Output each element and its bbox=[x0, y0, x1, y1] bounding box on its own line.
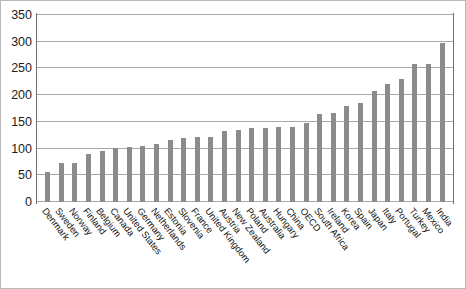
bar-new-zealand[interactable] bbox=[236, 130, 241, 202]
bar-slot bbox=[109, 15, 123, 202]
bar-slot bbox=[340, 15, 354, 202]
x-axis-labels-group: DenmarkSwedenNorwayFinlandBelgiumCanadaU… bbox=[37, 204, 453, 284]
bar-united-kingdom[interactable] bbox=[208, 137, 213, 202]
bar-slot bbox=[394, 15, 408, 202]
bar-oecd[interactable] bbox=[304, 123, 309, 202]
bar-slovenia[interactable] bbox=[181, 138, 186, 202]
x-label-slot: OECD bbox=[299, 204, 313, 284]
y-tick-label-50: 50 bbox=[18, 169, 32, 182]
x-label-slot: Austria bbox=[218, 204, 232, 284]
bar-slot bbox=[245, 15, 259, 202]
bars-group bbox=[37, 15, 453, 202]
bar-slot bbox=[299, 15, 313, 202]
y-tick-label-0: 0 bbox=[25, 196, 32, 209]
bar-slot bbox=[95, 15, 109, 202]
bar-australia[interactable] bbox=[263, 128, 268, 202]
x-label-slot: Korea bbox=[340, 204, 354, 284]
x-label-slot: Italy bbox=[381, 204, 395, 284]
bar-estonia[interactable] bbox=[168, 140, 173, 203]
bar-india[interactable] bbox=[440, 43, 445, 202]
x-label-slot: India bbox=[435, 204, 449, 284]
bar-netherlands[interactable] bbox=[154, 144, 159, 202]
bar-canada[interactable] bbox=[113, 148, 118, 202]
x-label-slot: Australia bbox=[259, 204, 273, 284]
x-label-slot: Belgium bbox=[95, 204, 109, 284]
y-tick-label-350: 350 bbox=[11, 9, 32, 22]
bar-slot bbox=[136, 15, 150, 202]
y-tick-label-150: 150 bbox=[11, 116, 32, 129]
bar-hungary[interactable] bbox=[276, 127, 281, 202]
bar-slot bbox=[313, 15, 327, 202]
x-label-slot: Ireland bbox=[326, 204, 340, 284]
bar-turkey[interactable] bbox=[412, 64, 417, 202]
bar-slot bbox=[231, 15, 245, 202]
x-label-slot: South Africa bbox=[313, 204, 327, 284]
chart-container: 050100150200250300350 DenmarkSwedenNorwa… bbox=[0, 0, 466, 289]
bar-denmark[interactable] bbox=[45, 172, 50, 202]
bar-mexico[interactable] bbox=[426, 64, 431, 202]
x-label-slot: Finland bbox=[82, 204, 96, 284]
bar-spain[interactable] bbox=[358, 103, 363, 202]
x-label-slot: Germany bbox=[136, 204, 150, 284]
bar-south-africa[interactable] bbox=[317, 114, 322, 202]
bar-slot bbox=[326, 15, 340, 202]
bar-france[interactable] bbox=[195, 137, 200, 202]
bar-slot bbox=[381, 15, 395, 202]
bar-finland[interactable] bbox=[86, 154, 91, 202]
x-label-slot: Japan bbox=[367, 204, 381, 284]
bar-slot bbox=[367, 15, 381, 202]
bar-belgium[interactable] bbox=[100, 151, 105, 202]
x-label-slot: Canada bbox=[109, 204, 123, 284]
bar-poland[interactable] bbox=[249, 128, 254, 202]
bar-germany[interactable] bbox=[140, 146, 145, 202]
bar-slot bbox=[286, 15, 300, 202]
x-label-slot: New Zealand bbox=[231, 204, 245, 284]
bar-slot bbox=[68, 15, 82, 202]
y-tick-label-250: 250 bbox=[11, 62, 32, 75]
bar-slot bbox=[259, 15, 273, 202]
bar-austria[interactable] bbox=[222, 131, 227, 202]
x-label-slot: Mexico bbox=[422, 204, 436, 284]
bar-slot bbox=[82, 15, 96, 202]
bar-slot bbox=[435, 15, 449, 202]
x-label-slot: Turkey bbox=[408, 204, 422, 284]
bar-slot bbox=[204, 15, 218, 202]
x-axis-label-india: India bbox=[435, 206, 455, 228]
x-label-slot: Poland bbox=[245, 204, 259, 284]
x-label-slot: France bbox=[191, 204, 205, 284]
bar-slot bbox=[272, 15, 286, 202]
y-tick-label-100: 100 bbox=[11, 142, 32, 155]
bar-china[interactable] bbox=[290, 127, 295, 202]
bar-japan[interactable] bbox=[372, 91, 377, 202]
bar-sweden[interactable] bbox=[59, 163, 64, 202]
plot-right-border bbox=[453, 13, 454, 204]
bar-italy[interactable] bbox=[385, 84, 390, 202]
bar-slot bbox=[218, 15, 232, 202]
bar-norway[interactable] bbox=[72, 163, 77, 202]
bar-united-states[interactable] bbox=[127, 147, 132, 202]
x-label-slot: Spain bbox=[354, 204, 368, 284]
x-label-slot: United Kingdom bbox=[204, 204, 218, 284]
bar-ireland[interactable] bbox=[331, 113, 336, 202]
y-tick-label-300: 300 bbox=[11, 35, 32, 48]
bar-slot bbox=[55, 15, 69, 202]
bar-slot bbox=[163, 15, 177, 202]
bar-korea[interactable] bbox=[344, 106, 349, 202]
bar-portugal[interactable] bbox=[399, 79, 404, 202]
x-label-slot: Hungary bbox=[272, 204, 286, 284]
bar-slot bbox=[422, 15, 436, 202]
x-label-slot: China bbox=[286, 204, 300, 284]
x-label-slot: Denmark bbox=[41, 204, 55, 284]
x-label-slot: Netherlands bbox=[150, 204, 164, 284]
x-label-slot: Sweden bbox=[55, 204, 69, 284]
bar-slot bbox=[191, 15, 205, 202]
x-label-slot: United States bbox=[123, 204, 137, 284]
bar-slot bbox=[150, 15, 164, 202]
y-tick-label-200: 200 bbox=[11, 89, 32, 102]
bar-slot bbox=[123, 15, 137, 202]
bar-slot bbox=[177, 15, 191, 202]
x-label-slot: Portugal bbox=[394, 204, 408, 284]
bar-slot bbox=[408, 15, 422, 202]
x-label-slot: Norway bbox=[68, 204, 82, 284]
bar-slot bbox=[41, 15, 55, 202]
